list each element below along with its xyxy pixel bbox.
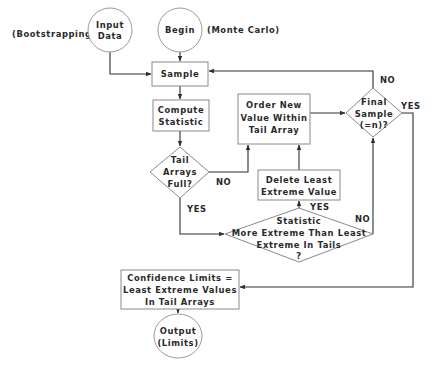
- node-confidence-line-3: In Tail Arrays: [145, 297, 215, 307]
- node-extreme-line-1: Statistic: [277, 216, 322, 226]
- node-input-data-line-2: Data: [98, 31, 123, 41]
- node-begin-label: Begin: [165, 25, 195, 35]
- node-extreme-line-2: More Extreme Than Least: [232, 228, 367, 238]
- label-final-no: NO: [380, 75, 395, 85]
- node-compute-statistic: Compute Statistic: [153, 100, 209, 131]
- node-order-line-2: Value Within: [240, 113, 307, 123]
- node-tailfull-line-3: Full?: [168, 179, 193, 189]
- node-tailfull-line-2: Arrays: [163, 167, 197, 177]
- node-delete-line-1: Delete Least: [266, 175, 333, 185]
- node-confidence-line-1: Confidence Limits =: [127, 273, 233, 283]
- flowchart: (Bootstrapping) (Monte Carlo) Input Data…: [0, 0, 434, 367]
- node-confidence-line-2: Least Extreme Values: [123, 285, 237, 295]
- node-sample: Sample: [152, 62, 208, 86]
- node-delete-least-extreme: Delete Least Extreme Value: [258, 170, 340, 200]
- node-order-line-1: Order New: [246, 100, 302, 110]
- label-tailfull-yes: YES: [186, 204, 207, 214]
- node-input-data: Input Data: [88, 8, 132, 52]
- node-begin: Begin: [158, 8, 202, 52]
- edge-input-to-sample: [110, 52, 151, 74]
- node-compute-line-2: Statistic: [159, 117, 204, 127]
- node-extreme-line-4: ?: [296, 251, 301, 261]
- node-delete-line-2: Extreme Value: [261, 187, 337, 197]
- node-final-line-2: Sample: [355, 109, 394, 119]
- edge-final-no-to-sample: [209, 71, 373, 88]
- node-compute-line-1: Compute: [158, 105, 204, 115]
- node-tail-arrays-full: Tail Arrays Full?: [150, 147, 209, 198]
- node-tailfull-line-1: Tail: [171, 155, 189, 165]
- annotation-bootstrapping: (Bootstrapping): [12, 29, 96, 39]
- node-order-new-value: Order New Value Within Tail Array: [238, 94, 310, 144]
- annotation-monte-carlo: (Monte Carlo): [207, 25, 280, 35]
- label-extreme-yes: YES: [309, 202, 330, 212]
- node-order-line-3: Tail Array: [249, 125, 300, 135]
- node-sample-label: Sample: [161, 69, 200, 79]
- label-final-yes: YES: [400, 101, 421, 111]
- node-final-line-1: Final: [361, 97, 387, 107]
- node-final-line-3: (=n)?: [360, 120, 389, 130]
- node-final-sample: Final Sample (=n)?: [346, 88, 402, 137]
- node-output-line-2: (Limits): [157, 338, 198, 348]
- node-confidence-limits: Confidence Limits = Least Extreme Values…: [121, 270, 239, 309]
- node-input-data-line-1: Input: [96, 20, 124, 30]
- label-extreme-no: NO: [355, 214, 370, 224]
- node-extreme-line-3: Extreme In Tails: [257, 240, 342, 250]
- node-output: Output (Limits): [154, 314, 202, 358]
- node-output-line-1: Output: [160, 326, 197, 336]
- edge-tailfull-no-to-order: [209, 145, 248, 172]
- node-statistic-more-extreme: Statistic More Extreme Than Least Extrem…: [225, 208, 373, 262]
- label-tailfull-no: NO: [216, 177, 231, 187]
